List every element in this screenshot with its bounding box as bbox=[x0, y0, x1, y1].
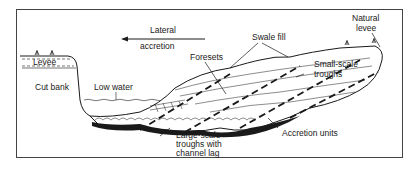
label-natural-levee-line2: levee bbox=[356, 24, 376, 34]
label-cut-bank: Cut bank bbox=[35, 83, 69, 93]
vegetation-icon bbox=[35, 50, 54, 55]
label-swale-fill: Swale fill bbox=[252, 33, 286, 43]
label-levee: Levee bbox=[33, 58, 56, 68]
low-water-surface bbox=[84, 99, 172, 101]
label-accretion-units: Accretion units bbox=[282, 129, 338, 139]
label-small-scale-troughs-line2: troughs bbox=[314, 70, 342, 80]
label-foresets: Foresets bbox=[190, 53, 223, 63]
label-large-scale-troughs-line3: channel lag bbox=[176, 149, 219, 159]
natural-levee-vegetation-icon bbox=[345, 38, 376, 45]
label-lateral-accretion-line1: Lateral bbox=[150, 26, 176, 36]
label-low-water: Low water bbox=[94, 83, 133, 93]
label-lateral-accretion-line2: accretion bbox=[140, 42, 175, 52]
